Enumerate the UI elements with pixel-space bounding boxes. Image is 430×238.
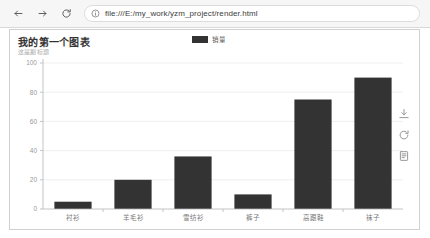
back-button[interactable] [8,4,28,24]
y-tick-label: 100 [26,59,37,66]
bar[interactable] [234,194,271,209]
x-tick-label: 袜子 [366,213,380,222]
y-tick-label: 20 [30,176,38,183]
y-tick-label: 60 [30,118,38,125]
x-tick-label: 羊毛衫 [123,213,144,222]
browser-toolbar: file:///E:/my_work/yzm_project/render.ht… [0,0,430,28]
address-bar[interactable]: file:///E:/my_work/yzm_project/render.ht… [84,5,420,22]
y-tick-label: 40 [30,147,38,154]
bar[interactable] [294,100,331,210]
forward-button[interactable] [32,4,52,24]
browser-window: file:///E:/my_work/yzm_project/render.ht… [0,0,430,238]
x-tick-label: 裤子 [246,213,260,222]
chart-container: 我的第一个图表 这是副标题 销量 [9,29,420,230]
y-tick-label: 0 [33,205,37,212]
bar[interactable] [174,156,211,209]
gridlines [43,63,403,180]
bar[interactable] [354,78,391,209]
x-tick-label: 衬衫 [66,213,80,222]
x-tick-label: 雪纺衫 [183,213,204,222]
bar[interactable] [114,180,151,209]
arrow-left-icon [13,8,24,19]
info-circle-icon [91,9,100,18]
x-axis: 衬衫羊毛衫雪纺衫裤子高跟鞋袜子 [43,209,403,222]
chart-plot: 020406080100 衬衫羊毛衫雪纺衫裤子高跟鞋袜子 [10,30,421,231]
y-tick-label: 80 [30,89,38,96]
reload-icon [61,8,72,19]
y-axis: 020406080100 [26,59,43,212]
bar[interactable] [54,202,91,209]
arrow-right-icon [37,8,48,19]
reload-button[interactable] [56,4,76,24]
chart-svg: 020406080100 衬衫羊毛衫雪纺衫裤子高跟鞋袜子 [10,30,421,231]
bars [54,78,391,209]
x-tick-label: 高跟鞋 [303,213,324,222]
page-content: 我的第一个图表 这是副标题 销量 [0,28,430,238]
url-text: file:///E:/my_work/yzm_project/render.ht… [105,9,258,18]
